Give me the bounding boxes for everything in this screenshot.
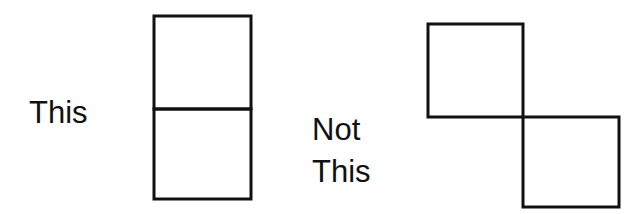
diagonal-box-top xyxy=(428,24,523,117)
diagonal-box-bottom xyxy=(523,117,619,207)
diagram-canvas xyxy=(0,0,641,214)
stacked-box-top xyxy=(154,16,251,109)
stacked-box-bottom xyxy=(154,109,251,199)
